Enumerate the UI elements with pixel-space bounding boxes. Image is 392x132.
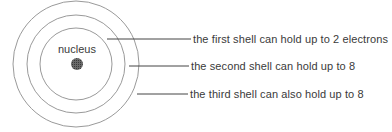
nucleus-label: nucleus <box>58 43 96 56</box>
shell-1-label: the first shell can hold up to 2 electro… <box>193 33 388 46</box>
shell-2-label: the second shell can hold up to 8 <box>191 60 355 73</box>
nucleus-dot <box>71 58 83 70</box>
shell-3-label: the third shell can also hold up to 8 <box>190 88 364 101</box>
